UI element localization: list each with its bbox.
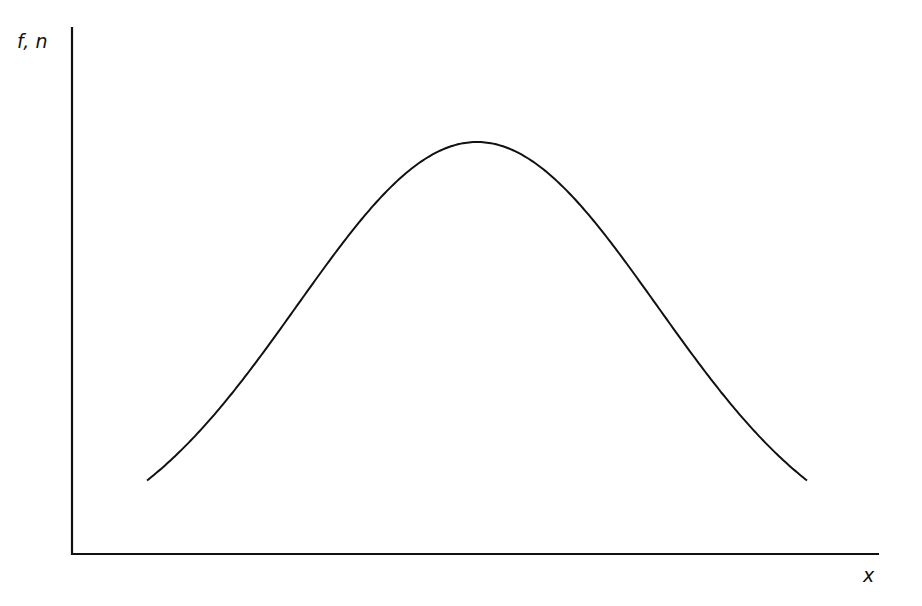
bell-curve xyxy=(147,142,807,481)
x-axis-label: x xyxy=(863,564,874,586)
y-axis-label: f, n xyxy=(17,30,47,52)
chart-canvas xyxy=(0,0,922,606)
